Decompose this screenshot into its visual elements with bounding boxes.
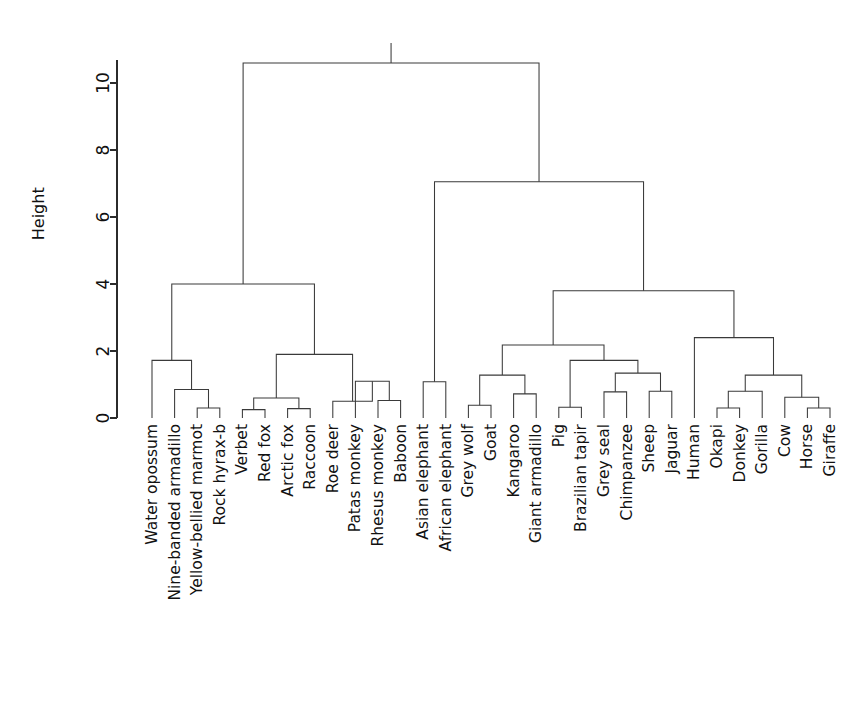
merge-link <box>514 394 537 418</box>
leaf-label: Sheep <box>640 424 658 473</box>
dendrogram-merge <box>242 410 265 418</box>
merge-link <box>553 291 734 345</box>
y-axis-tick-label: 8 <box>93 145 113 156</box>
leaf-label: Chimpanzee <box>618 424 636 520</box>
merge-link <box>559 407 582 418</box>
leaf-label: Giraffe <box>821 424 839 476</box>
leaf-label: Donkey <box>731 424 749 482</box>
leaf-label: Water opossum <box>143 424 161 545</box>
merge-link <box>175 390 209 418</box>
dendrogram-merge <box>480 375 525 405</box>
leaf-label: Grey wolf <box>459 423 477 497</box>
leaf-label: Asian elephant <box>414 424 432 540</box>
dendrogram-figure: 0246810 Water opossumNine-banded armadil… <box>0 0 859 710</box>
leaf-label: Red fox <box>256 424 274 482</box>
leaf-label: African elephant <box>437 424 455 551</box>
leaf-label: Rock hyrax-b <box>211 424 229 525</box>
dendrogram-merge <box>243 63 539 284</box>
merge-link <box>745 375 802 397</box>
dendrogram-merge <box>694 338 773 418</box>
merge-link <box>480 375 525 405</box>
dendrogram-merge <box>423 382 446 418</box>
leaf-label: Horse <box>798 424 816 469</box>
leaf-label: Human <box>685 424 703 480</box>
merge-link <box>276 354 352 401</box>
leaf-label: Kangaroo <box>505 424 523 498</box>
y-axis-tick-label: 4 <box>93 279 113 290</box>
leaf-label: Pig <box>550 424 568 447</box>
dendrogram-merge <box>745 375 802 397</box>
merge-link <box>604 392 627 418</box>
leaf-label: Cow <box>776 424 794 457</box>
leaf-label: Yellow-bellied marmot <box>188 424 206 596</box>
leaf-label: Giant armadillo <box>527 424 545 543</box>
merge-link <box>242 410 265 418</box>
leaf-label: Brazilian tapir <box>572 423 590 532</box>
dendrogram-merge <box>649 391 672 418</box>
dendrogram-merge <box>553 291 734 345</box>
merge-link <box>243 63 539 284</box>
dendrogram-merge <box>378 401 401 418</box>
merge-link <box>254 398 299 410</box>
dendrogram-merge <box>288 409 311 418</box>
y-axis-title: Height <box>29 187 48 240</box>
merge-link <box>728 391 762 418</box>
leaf-label: Grey seal <box>595 424 613 497</box>
leaf-label: Baboon <box>392 424 410 483</box>
merge-link <box>807 408 830 418</box>
merge-link <box>615 373 660 392</box>
dendrogram-branches <box>152 43 830 418</box>
dendrogram-merge <box>197 408 220 418</box>
dendrogram-merge <box>172 284 315 360</box>
merge-link <box>423 382 446 418</box>
dendrogram-merge <box>514 394 537 418</box>
dendrogram-plot-area: 0246810 Water opossumNine-banded armadil… <box>0 0 859 710</box>
leaf-label: Roe deer <box>324 423 342 493</box>
dendrogram-merge <box>254 398 299 410</box>
leaf-label: Gorilla <box>753 424 771 474</box>
y-axis: 0246810 <box>93 60 117 424</box>
merge-link <box>435 182 644 382</box>
merge-link <box>717 408 740 418</box>
merge-link <box>694 338 773 418</box>
merge-link <box>197 408 220 418</box>
leaf-label: Okapi <box>708 424 726 469</box>
merge-link <box>378 401 401 418</box>
merge-link <box>172 284 315 360</box>
dendrogram-merge <box>604 392 627 418</box>
leaf-label: Rhesus monkey <box>369 424 387 547</box>
leaf-label: Verbet <box>233 424 251 475</box>
dendrogram-merge <box>276 354 352 401</box>
leaf-label: Raccoon <box>301 424 319 490</box>
leaf-label: Patas monkey <box>346 424 364 532</box>
axis-title-group: Height <box>29 187 48 240</box>
dendrogram-merge <box>175 390 209 418</box>
merge-link <box>288 409 311 418</box>
leaf-label: Goat <box>482 424 500 461</box>
leaf-labels: Water opossumNine-banded armadilloYellow… <box>143 423 839 600</box>
dendrogram-merge <box>717 408 740 418</box>
leaf-label: Arctic fox <box>279 424 297 497</box>
merge-link <box>468 405 491 418</box>
dendrogram-merge <box>615 373 660 392</box>
leaf-label: Nine-banded armadillo <box>166 424 184 601</box>
dendrogram-merge <box>807 408 830 418</box>
merge-link <box>649 391 672 418</box>
y-axis-tick-label: 0 <box>93 413 113 424</box>
y-axis-tick-label: 10 <box>93 72 113 94</box>
leaf-label: Jaguar <box>663 423 681 474</box>
y-axis-tick-label: 2 <box>93 346 113 357</box>
dendrogram-merge <box>559 407 582 418</box>
dendrogram-merge <box>435 182 644 382</box>
dendrogram-merge <box>468 405 491 418</box>
y-axis-tick-label: 6 <box>93 212 113 223</box>
dendrogram-merge <box>728 391 762 418</box>
